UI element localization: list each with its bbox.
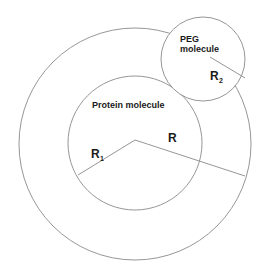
diagram-canvas: Protein molecule PEG molecule R R 1 R 2 [0,0,268,270]
peg-label-line1: PEG [180,34,199,44]
radius-r1-line [78,140,135,175]
radius-r-line [135,140,245,176]
r1-label-sub: 1 [100,155,104,162]
diagram-svg: Protein molecule PEG molecule R R 1 R 2 [0,0,268,270]
r1-label-main: R [91,147,100,161]
r2-label-sub: 2 [219,77,223,84]
peg-molecule-circle [161,17,245,101]
r1-label: R 1 [91,147,104,162]
protein-molecule-circle [68,76,202,210]
peg-label-line2: molecule [180,44,219,54]
protein-molecule-label: Protein molecule [92,100,165,110]
r2-label-main: R [210,69,219,83]
r-label: R [168,131,177,145]
